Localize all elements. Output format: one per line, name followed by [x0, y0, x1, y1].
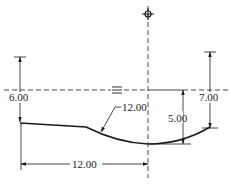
dimension-left-height-label: 6.00 — [9, 91, 29, 103]
profile-curve — [20, 123, 210, 144]
dimension-bottom-width-label: 12.00 — [72, 158, 97, 170]
drawing-canvas: 6.00 12.00 5.00 7.00 12.00 — [0, 0, 231, 184]
dimension-left-height — [7, 57, 33, 122]
center-target-icon — [142, 8, 154, 20]
flat-symbol-icon — [111, 86, 123, 94]
dimension-center-depth-label: 5.00 — [168, 112, 188, 124]
dimension-right-height-label: 7.00 — [199, 91, 219, 103]
leader-radius-label: 12.00 — [122, 101, 147, 113]
leader-radius — [101, 107, 121, 132]
